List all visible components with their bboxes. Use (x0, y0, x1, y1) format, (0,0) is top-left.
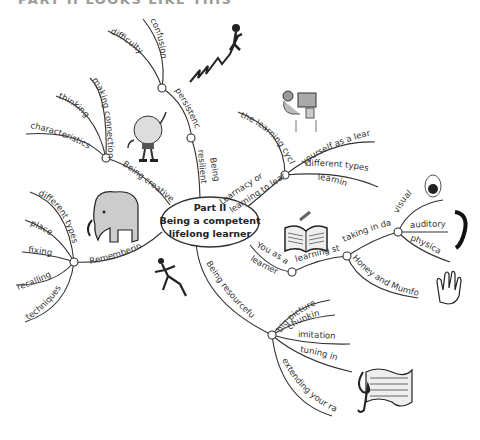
node-learner (288, 268, 296, 276)
node-taking-in-data (394, 228, 402, 236)
svg-text:extending your range: extending your range (0, 0, 339, 414)
label-thinking: thinking (57, 91, 92, 120)
label-yourself: yourself as a learner (0, 0, 372, 167)
label-honey-mumford: Honey and Mumford (0, 0, 420, 298)
sheet-music-icon (358, 369, 412, 412)
label-resilient: resilient (196, 149, 209, 184)
svg-text:tuning in: tuning in (300, 344, 340, 362)
svg-text:visual: visual (391, 188, 414, 215)
label-visual: visual (391, 188, 414, 215)
svg-text:different types: different types (37, 188, 80, 245)
center-line2: Being a competent (159, 215, 261, 226)
label-extending-range: extending your range (0, 0, 339, 414)
label-imitation: imitation (298, 329, 336, 341)
hand-icon (437, 271, 461, 304)
label-auditory: auditory (409, 219, 446, 230)
svg-text:learning: learning (0, 0, 349, 188)
label-characteristics: characteristics (30, 120, 93, 151)
svg-text:fixing: fixing (28, 244, 53, 258)
svg-text:confusion: confusion (148, 16, 169, 59)
label-fixing: fixing (28, 244, 53, 258)
node-remembering (70, 258, 78, 266)
svg-text:imitation: imitation (298, 329, 336, 341)
node-persistence (158, 84, 166, 92)
elephant-icon (88, 192, 138, 242)
node-learning-styles (343, 252, 351, 260)
label-being: Being (208, 157, 222, 183)
svg-text:auditory: auditory (409, 219, 446, 230)
label-tuning-in: tuning in (300, 344, 340, 362)
label-place: place (29, 218, 54, 238)
svg-text:recalling: recalling (16, 269, 53, 292)
label-recalling: recalling (16, 269, 53, 292)
label-difficulty: difficulty (109, 26, 145, 56)
svg-text:difficulty: difficulty (109, 26, 145, 56)
branch-resilient (162, 88, 200, 205)
svg-text:persistence: persistence (0, 0, 203, 130)
svg-text:characteristics: characteristics (30, 120, 93, 151)
mind-map: Part II Being a competent lifelong learn… (0, 0, 480, 440)
lightbulb-character-icon (128, 112, 166, 162)
node-resourceful (268, 331, 276, 339)
label-confusion: confusion (148, 16, 169, 59)
svg-text:place: place (29, 218, 54, 238)
label-learning: learning (0, 0, 349, 188)
ear-icon (455, 212, 466, 248)
running-figure-icon (155, 258, 186, 296)
person-at-computer-icon (283, 91, 316, 132)
eye-icon (425, 175, 441, 197)
svg-text:Honey and Mumford: Honey and Mumford (0, 0, 420, 298)
node-resilient (187, 134, 195, 142)
label-different-types: different types (37, 188, 80, 245)
label-persistence: persistence (0, 0, 203, 130)
climber-zigzag-icon (190, 24, 242, 82)
svg-text:thinking: thinking (57, 91, 92, 120)
center-line3: lifelong learner (169, 228, 252, 239)
open-book-icon (285, 212, 327, 252)
svg-text:yourself as a learner: yourself as a learner (0, 0, 372, 167)
